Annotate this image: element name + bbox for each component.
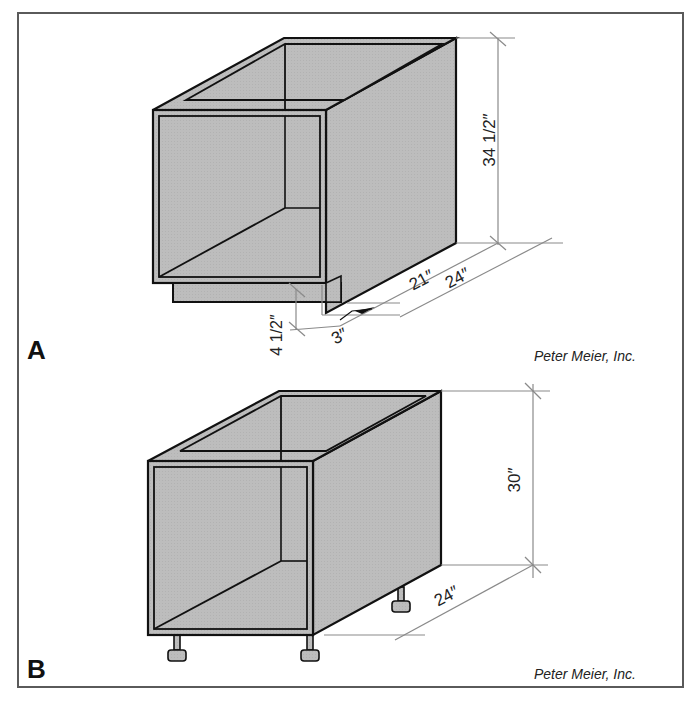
panel-label-a: A	[27, 335, 46, 366]
dim-a-toe-kick-depth: 3″	[328, 324, 351, 348]
dim-a-height: 34 1/2″	[480, 113, 499, 166]
dim-b-height: 30″	[505, 468, 524, 493]
credit-b: Peter Meier, Inc.	[534, 666, 636, 682]
credit-a: Peter Meier, Inc.	[534, 348, 636, 364]
dim-a-overall-depth: 24″	[442, 264, 473, 292]
dim-a-toe-kick-height: 4 1/2″	[268, 314, 285, 356]
panel-label-b: B	[27, 654, 46, 685]
dim-a-inner-depth: 21″	[406, 266, 437, 294]
cabinet-b	[148, 391, 441, 661]
cabinet-a	[153, 38, 456, 313]
